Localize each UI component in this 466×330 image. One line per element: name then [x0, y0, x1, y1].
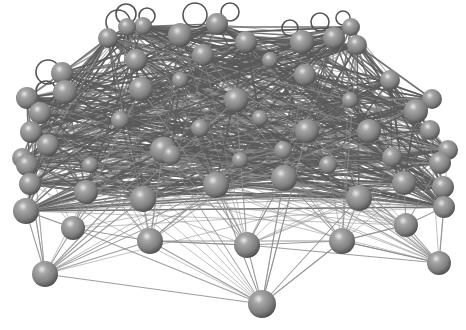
network-edge: [73, 228, 262, 304]
network-edge: [150, 241, 247, 245]
network-node: [82, 157, 98, 173]
network-node: [380, 70, 400, 90]
network-node: [224, 88, 248, 112]
network-node: [137, 228, 163, 254]
network-node: [130, 186, 156, 212]
network-node: [129, 77, 153, 101]
network-node: [429, 152, 451, 174]
network-node: [74, 180, 98, 204]
network-node: [111, 111, 129, 129]
network-node: [404, 99, 428, 123]
network-node: [235, 31, 257, 53]
network-node: [29, 102, 51, 124]
network-node: [392, 171, 416, 195]
network-node: [294, 64, 316, 86]
network-node: [203, 172, 229, 198]
network-node: [262, 52, 278, 68]
network-node: [53, 80, 77, 104]
network-node: [118, 18, 136, 36]
network-node: [295, 119, 319, 143]
network-node: [98, 28, 118, 48]
network-node: [290, 30, 314, 54]
network-node: [382, 147, 402, 167]
network-node: [37, 134, 59, 156]
network-node: [32, 261, 58, 287]
network-graph-canvas: [0, 0, 466, 330]
network-node: [420, 120, 440, 140]
network-node: [342, 18, 360, 36]
network-node: [61, 216, 85, 240]
network-node: [342, 92, 358, 108]
network-node: [323, 27, 345, 49]
self-loop-edge: [183, 3, 207, 27]
network-edge: [247, 241, 342, 245]
network-node: [274, 141, 292, 159]
network-node: [161, 145, 181, 165]
network-node: [16, 154, 38, 176]
network-node: [234, 232, 260, 258]
network-node: [252, 110, 268, 126]
network-node: [329, 228, 355, 254]
network-node: [191, 119, 209, 137]
network-node: [192, 44, 214, 66]
network-node: [206, 13, 228, 35]
network-node: [319, 156, 337, 174]
network-node: [433, 196, 455, 218]
network-node: [346, 185, 372, 211]
network-node: [232, 152, 248, 168]
network-node: [172, 72, 188, 88]
network-node: [168, 23, 192, 47]
network-node: [432, 176, 454, 198]
network-node: [19, 173, 41, 195]
network-node: [357, 119, 381, 143]
network-node: [394, 213, 418, 237]
network-node: [134, 17, 152, 35]
network-node: [271, 165, 297, 191]
network-node: [13, 198, 39, 224]
network-node: [125, 49, 147, 71]
network-node: [427, 251, 451, 275]
network-edge: [45, 274, 262, 304]
network-node: [347, 35, 367, 55]
network-node: [248, 290, 276, 318]
